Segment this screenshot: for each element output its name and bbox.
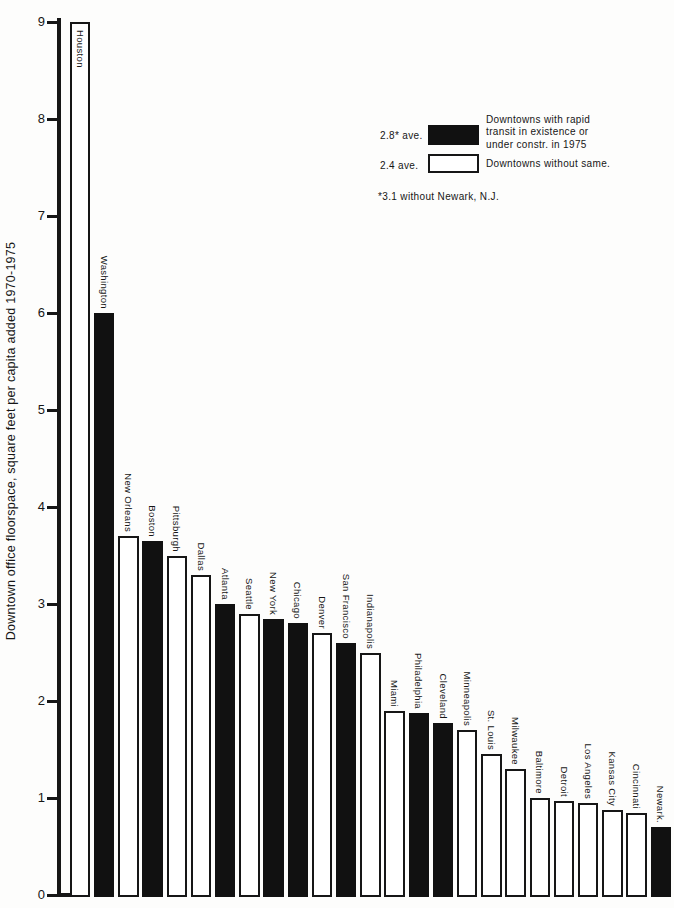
city-label-newark: Newark. (654, 786, 667, 823)
y-tick-8 (47, 118, 57, 121)
y-tick-label-5: 5 (10, 402, 45, 418)
y-tick-label-3: 3 (10, 596, 45, 612)
legend-black-description-line2: transit in existence or (486, 126, 590, 138)
bar-san-francisco (336, 643, 357, 897)
y-tick-7 (47, 215, 57, 218)
y-tick-label-8: 8 (10, 111, 45, 127)
y-tick-4 (47, 506, 57, 509)
legend-black-description-line3: under constr. in 1975 (486, 139, 590, 151)
city-label-miami: Miami (388, 680, 401, 707)
bar-pittsburgh (167, 556, 188, 897)
bar-dallas (191, 575, 212, 897)
legend-white-description: Downtowns without same. (486, 158, 610, 170)
bar-cincinnati (626, 813, 647, 897)
city-label-new-orleans: New Orleans (122, 473, 135, 532)
city-label-dallas: Dallas (195, 543, 208, 572)
bar-washington (94, 313, 115, 897)
bar-st-louis (481, 754, 502, 897)
bar-detroit (554, 801, 575, 897)
y-tick-label-0: 0 (10, 887, 45, 903)
bar-minneapolis (457, 730, 478, 897)
y-tick-label-7: 7 (10, 208, 45, 224)
city-label-kansas-city: Kansas City (606, 751, 619, 806)
y-axis-title: Downtown office floorspace, square feet … (4, 231, 24, 651)
bar-new-york (263, 619, 284, 897)
bar-cleveland (433, 723, 454, 897)
y-tick-6 (47, 312, 57, 315)
legend-black-description: Downtowns with rapid transit in existenc… (486, 114, 590, 151)
city-label-indianapolis: Indianapolis (364, 594, 377, 649)
y-tick-label-6: 6 (10, 305, 45, 321)
bar-milwaukee (505, 769, 526, 897)
city-label-denver: Denver (316, 596, 329, 629)
city-label-st-louis: St. Louis (485, 710, 498, 750)
city-label-washington: Washington (98, 256, 111, 309)
legend-black-average-label: 2.8* ave. (380, 130, 423, 141)
bar-boston (142, 541, 163, 897)
city-label-chicago: Chicago (291, 582, 304, 619)
city-label-new-york: New York (267, 572, 280, 615)
city-label-san-francisco: San Francisco (340, 574, 353, 639)
y-axis-line (57, 18, 62, 897)
y-tick-5 (47, 409, 57, 412)
city-label-los-angeles: Los Angeles (582, 743, 595, 799)
city-label-pittsburgh: Pittsburgh (170, 506, 183, 552)
bar-seattle (239, 614, 260, 897)
y-tick-1 (47, 797, 57, 800)
bar-new-orleans (118, 536, 139, 897)
city-label-detroit: Detroit (558, 767, 571, 797)
city-label-boston: Boston (146, 505, 159, 537)
legend-footnote: *3.1 without Newark, N.J. (378, 191, 499, 202)
city-label-minneapolis: Minneapolis (461, 671, 474, 726)
bar-chart-figure: Downtown office floorspace, square feet … (0, 0, 674, 908)
legend-black-swatch (428, 125, 479, 145)
bar-indianapolis (360, 653, 381, 897)
city-label-cincinnati: Cincinnati (630, 764, 643, 809)
y-tick-label-4: 4 (10, 499, 45, 515)
bar-denver (312, 633, 333, 897)
bar-houston (70, 22, 91, 897)
legend-black-description-line1: Downtowns with rapid (486, 114, 590, 126)
bar-chicago (288, 623, 309, 897)
city-label-seattle: Seattle (243, 578, 256, 610)
city-label-houston: Houston (74, 30, 87, 68)
bar-baltimore (530, 798, 551, 897)
legend-white-average-label: 2.4 ave. (380, 160, 418, 171)
y-tick-0 (47, 894, 57, 897)
bar-philadelphia (409, 713, 430, 897)
city-label-atlanta: Atlanta (219, 568, 232, 600)
y-tick-3 (47, 603, 57, 606)
y-tick-label-9: 9 (10, 14, 45, 30)
bar-newark (651, 827, 672, 897)
y-tick-2 (47, 700, 57, 703)
bar-atlanta (215, 604, 236, 897)
legend-white-swatch (428, 154, 479, 173)
city-label-cleveland: Cleveland (437, 674, 450, 719)
city-label-philadelphia: Philadelphia (412, 653, 425, 709)
bar-miami (384, 711, 405, 897)
bar-los-angeles (578, 803, 599, 897)
city-label-baltimore: Baltimore (533, 751, 546, 794)
city-label-milwaukee: Milwaukee (509, 717, 522, 765)
y-tick-label-2: 2 (10, 693, 45, 709)
y-tick-9 (47, 21, 57, 24)
bar-kansas-city (602, 810, 623, 897)
y-tick-label-1: 1 (10, 790, 45, 806)
